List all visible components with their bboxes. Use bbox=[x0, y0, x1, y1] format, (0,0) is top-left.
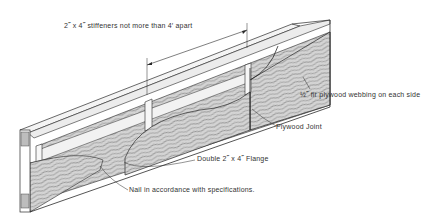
stiffeners-label: 2˝ x 4˝ stiffeners not more than 4′ apar… bbox=[64, 22, 192, 29]
nail-label: Nail in accordance with specifications. bbox=[129, 186, 255, 193]
plywood-joint-label: Plywood Joint bbox=[276, 123, 322, 130]
stiffener bbox=[145, 99, 152, 131]
flange-label: Double 2˝ x 4˝ Flange bbox=[197, 155, 269, 162]
webbing-label: ½˝ fir plywood webbing on each side bbox=[300, 91, 420, 98]
box-beam-diagram: 2˝ x 4˝ stiffeners not more than 4′ apar… bbox=[0, 0, 447, 224]
